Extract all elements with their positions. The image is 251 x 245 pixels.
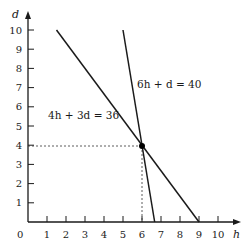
x-tick-label: 5 bbox=[120, 229, 126, 240]
y-axis-arrow-icon bbox=[25, 11, 31, 19]
y-tick-label: 1 bbox=[16, 197, 22, 208]
x-tick-label: 6 bbox=[139, 229, 145, 240]
x-tick-label: 4 bbox=[101, 229, 107, 240]
label-line2: 6h + d = 40 bbox=[137, 78, 201, 90]
chart: 12345678910 12345678910 d h 0 4h + 3d = … bbox=[0, 0, 251, 245]
y-tick-label: 9 bbox=[16, 44, 22, 55]
y-ticks: 12345678910 bbox=[9, 25, 34, 209]
y-tick-label: 8 bbox=[16, 63, 22, 74]
x-tick-label: 8 bbox=[177, 229, 183, 240]
x-axis-label: h bbox=[233, 228, 240, 241]
x-tick-label: 7 bbox=[158, 229, 164, 240]
label-line1: 4h + 3d = 36 bbox=[48, 109, 119, 121]
y-axis-label: d bbox=[12, 8, 19, 21]
y-tick-label: 10 bbox=[9, 25, 22, 36]
y-tick-label: 4 bbox=[16, 140, 22, 151]
x-tick-label: 3 bbox=[82, 229, 88, 240]
x-tick-label: 9 bbox=[196, 229, 202, 240]
intersection-point bbox=[139, 143, 145, 149]
x-tick-label: 10 bbox=[212, 229, 225, 240]
x-tick-label: 1 bbox=[44, 229, 50, 240]
y-tick-label: 7 bbox=[16, 82, 22, 93]
x-tick-label: 2 bbox=[63, 229, 69, 240]
y-tick-label: 3 bbox=[16, 159, 22, 170]
origin-label: 0 bbox=[17, 229, 23, 240]
y-tick-label: 5 bbox=[16, 121, 22, 132]
y-tick-label: 2 bbox=[16, 178, 22, 189]
y-tick-label: 6 bbox=[16, 101, 22, 112]
x-axis-arrow-icon bbox=[233, 219, 241, 225]
